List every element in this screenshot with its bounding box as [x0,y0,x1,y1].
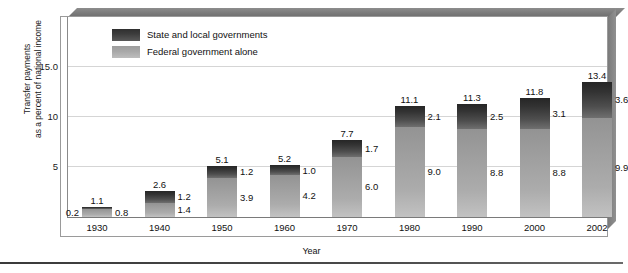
bar-value-label-federal-1950: 3.9 [240,192,253,203]
plot-area: 1.10.20.82.61.21.45.11.23.95.21.04.27.71… [68,17,607,217]
x-tick-label-1940: 1940 [130,222,190,233]
x-tick-label-1990: 1990 [442,222,502,233]
y-tick-label-10: 10 [47,111,58,122]
y-tick-label-5: 5 [53,161,58,172]
bar-group-2002: 13.43.69.9 [582,82,612,217]
bar-total-label-1960: 5.2 [278,153,291,164]
bar-group-1990: 11.32.58.8 [457,104,487,217]
bar-value-label-federal-1970: 6.0 [365,181,378,192]
bar-total-label-1940: 2.6 [153,179,166,190]
bar-value-label-state-1960: 1.0 [303,165,316,176]
bar-group-1940: 2.61.21.4 [145,191,175,217]
bar-value-label-federal-1930: 0.8 [115,207,128,218]
bar-segment-federal-1950: 3.9 [207,178,237,217]
bar-total-label-1980: 11.1 [401,94,419,105]
x-tick-label-1950: 1950 [192,222,252,233]
bar-value-label-state-1930: 0.2 [66,207,79,218]
bar-segment-federal-1940: 1.4 [145,203,175,217]
bar-value-label-federal-1980: 9.0 [428,166,441,177]
x-axis-title: Year [0,246,623,256]
bar-segment-federal-2000: 8.8 [520,129,550,217]
bar-value-label-state-1940: 1.2 [178,191,191,202]
bar-group-1980: 11.12.19.0 [395,106,425,217]
bar-segment-state-2000: 3.1 [520,98,550,129]
y-axis-title: Transfer payments as a percent of nation… [22,0,44,159]
bar-segment-federal-2002: 9.9 [582,118,612,217]
bar-group-2000: 11.83.18.8 [520,98,550,217]
bar-total-label-1970: 7.7 [340,128,353,139]
bar-total-label-1930: 1.1 [90,195,103,206]
x-tick-label-1960: 1960 [255,222,315,233]
y-axis-title-line1: Transfer payments [22,44,32,115]
y-axis-title-line2: as a percent of national income [33,20,43,138]
bar-segment-state-2002: 3.6 [582,82,612,118]
bar-value-label-state-2002: 3.6 [615,94,628,105]
bar-value-label-federal-1940: 1.4 [178,204,191,215]
bar-group-1930: 1.10.20.8 [82,207,112,217]
bar-value-label-state-2000: 3.1 [553,108,566,119]
bar-segment-state-1990: 2.5 [457,104,487,129]
bar-segment-state-1980: 2.1 [395,106,425,127]
bar-total-label-2002: 13.4 [588,70,607,81]
bar-segment-state-1940: 1.2 [145,191,175,203]
bar-group-1950: 5.11.23.9 [207,166,237,217]
bottom-divider [0,262,623,264]
bar-segment-state-1960: 1.0 [270,165,300,175]
bar-segment-federal-1930: 0.8 [82,209,112,217]
x-axis-line [67,217,608,218]
y-tick-label-15: 15.0 [40,61,59,72]
x-tick-label-1980: 1980 [380,222,440,233]
bar-segment-federal-1990: 8.8 [457,129,487,217]
bar-segment-federal-1980: 9.0 [395,127,425,217]
bar-total-label-1950: 5.1 [215,154,228,165]
x-tick-label-1970: 1970 [317,222,377,233]
bar-value-label-federal-1960: 4.2 [303,190,316,201]
bar-value-label-state-1980: 2.1 [428,111,441,122]
x-tick-label-2000: 2000 [505,222,565,233]
bar-segment-federal-1960: 4.2 [270,175,300,217]
bar-total-label-2000: 11.8 [526,86,544,97]
bar-group-1960: 5.21.04.2 [270,165,300,217]
bar-value-label-state-1970: 1.7 [365,143,378,154]
bar-value-label-federal-1990: 8.8 [490,167,503,178]
bar-segment-state-1970: 1.7 [332,140,362,157]
bar-value-label-federal-2000: 8.8 [553,167,566,178]
bar-value-label-state-1950: 1.2 [240,166,253,177]
bar-value-label-state-1990: 2.5 [490,111,503,122]
x-tick-label-2002: 2002 [567,222,627,233]
bar-segment-state-1950: 1.2 [207,166,237,178]
bar-group-1970: 7.71.76.0 [332,140,362,217]
bar-value-label-federal-2002: 9.9 [615,162,628,173]
x-tick-label-1930: 1930 [67,222,127,233]
bar-segment-federal-1970: 6.0 [332,157,362,217]
bar-total-label-1990: 11.3 [463,92,481,103]
